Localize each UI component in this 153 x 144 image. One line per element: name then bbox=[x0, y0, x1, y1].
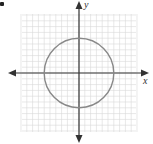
y-axis-label: y bbox=[84, 0, 88, 10]
y-axis-up-arrow-icon bbox=[76, 1, 83, 9]
x-axis-left-arrow-icon bbox=[8, 70, 16, 77]
x-axis-label: x bbox=[143, 76, 147, 86]
circle-graph bbox=[0, 0, 153, 144]
y-axis-down-arrow-icon bbox=[76, 135, 83, 143]
axes bbox=[8, 1, 149, 143]
